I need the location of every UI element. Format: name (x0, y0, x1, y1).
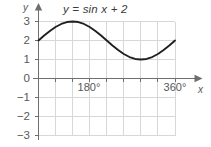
y-tick-label-3: 3 (12, 16, 30, 28)
y-axis (35, 3, 42, 140)
plot-area (0, 0, 211, 147)
sine-graph-figure: 3 2 1 0 −1 −2 −3 180° 360° y x y = sin x… (0, 0, 211, 147)
equation-label: y = sin x + 2 (63, 4, 128, 16)
y-tick-label-0: 0 (12, 73, 30, 85)
x-tick-label-180: 180° (71, 82, 107, 93)
y-tick-label-neg1: −1 (9, 92, 30, 104)
x-tick-label-360: 360° (157, 82, 193, 93)
x-axis-label: x (198, 85, 203, 95)
y-axis-label: y (23, 3, 28, 13)
y-tick-label-2: 2 (12, 35, 30, 47)
y-tick-label-1: 1 (12, 54, 30, 66)
y-tick-label-neg3: −3 (9, 130, 30, 142)
y-tick-label-neg2: −2 (9, 111, 30, 123)
